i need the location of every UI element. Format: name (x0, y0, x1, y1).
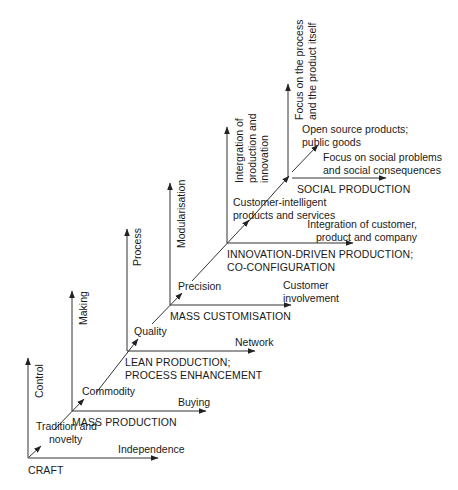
diagram-lines (0, 0, 458, 490)
vertical-axis-line: Focus on the process (293, 20, 306, 120)
vertical-axis-label-control: Control (33, 364, 46, 398)
diagonal-label-precision: Precision (178, 280, 221, 293)
vertical-axis-label-focus-process-product: Focus on the process and the product its… (293, 20, 318, 120)
vertical-axis-label-integration-production-innovation: Intergration of production and innovatio… (233, 114, 271, 183)
stage-label-craft: CRAFT (28, 464, 64, 477)
diagonal-label-customer-intelligent: Customer-intelligent products and servic… (233, 196, 335, 221)
diagonal-label-commodity: Commodity (82, 385, 135, 398)
stage-label-social-production: SOCIAL PRODUCTION (297, 183, 410, 196)
stage-label-line: LEAN PRODUCTION; (125, 356, 262, 369)
horizontal-axis-label-network: Network (235, 336, 274, 349)
horizontal-axis-label-integration-customer: Integration of customer, product and com… (306, 218, 417, 243)
stage-label-lean-production: LEAN PRODUCTION; PROCESS ENHANCEMENT (125, 356, 262, 381)
vertical-axis-line: and the product itself (306, 20, 319, 120)
vertical-axis-line: production and (246, 114, 259, 183)
horizontal-axis-line: and social consequences (323, 164, 442, 177)
horizontal-axis-label-independence: Independence (118, 443, 185, 456)
stage-label-mass-production: MASS PRODUCTION (72, 416, 177, 429)
diagonal-label-line: Open source products; (302, 123, 408, 136)
vertical-axis-line: Intergration of (233, 114, 246, 183)
horizontal-axis-label-customer-involvement: Customer involvement (283, 279, 339, 304)
horizontal-axis-label-focus-social: Focus on social problems and social cons… (323, 151, 442, 176)
vertical-axis-label-making: Making (77, 291, 90, 325)
horizontal-axis-line: Customer (283, 279, 339, 292)
diagonal-label-quality: Quality (134, 325, 167, 338)
horizontal-axis-line: product and company (316, 231, 417, 244)
vertical-axis-label-process: Process (131, 228, 144, 266)
diagonal-label-line: Customer-intelligent (233, 196, 335, 209)
diagonal-label-tradition: Tradition and novelty (36, 434, 97, 445)
horizontal-axis-line: involvement (283, 292, 339, 305)
horizontal-axis-line: Focus on social problems (323, 151, 442, 164)
diagonal-label-line: novelty (49, 433, 97, 446)
vertical-axis-label-modularisation: Modularisation (175, 180, 188, 248)
stage-label-innovation-driven: INNOVATION-DRIVEN PRODUCTION; CO-CONFIGU… (227, 248, 413, 273)
stage-label-line: CO-CONFIGURATION (227, 261, 413, 274)
horizontal-axis-label-buying: Buying (178, 396, 210, 409)
diagonal-label-open-source: Open source products; public goods (302, 123, 408, 148)
stage-label-line: INNOVATION-DRIVEN PRODUCTION; (227, 248, 413, 261)
stage-label-mass-customisation: MASS CUSTOMISATION (170, 310, 291, 323)
diagonal-label-line: public goods (302, 136, 408, 149)
stage-label-line: PROCESS ENHANCEMENT (125, 369, 262, 382)
vertical-axis-line: innovation (258, 114, 271, 183)
diagonal-label-line: products and services (233, 209, 335, 222)
